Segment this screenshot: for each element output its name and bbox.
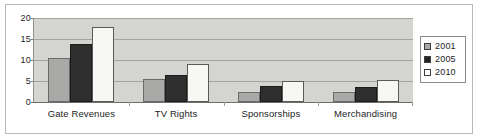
- legend-swatch-icon: [424, 69, 431, 76]
- x-axis-tick-mark: [224, 102, 225, 106]
- bar-group: [224, 18, 319, 102]
- y-axis: 05101520: [6, 18, 31, 102]
- bar-group: [318, 18, 413, 102]
- x-axis-category-label: Sponsorships: [224, 108, 319, 119]
- legend-item[interactable]: 2010: [424, 66, 462, 79]
- bar: [282, 81, 304, 102]
- legend-item[interactable]: 2001: [424, 40, 462, 53]
- chart-legend: 200120052010: [420, 36, 466, 83]
- bar: [70, 44, 92, 102]
- y-axis-tick-label: 20: [9, 14, 31, 23]
- legend-label: 2010: [435, 68, 456, 77]
- chart-figure: 05101520 200120052010 Gate RevenuesTV Ri…: [5, 4, 473, 134]
- y-axis-tick-label: 10: [9, 56, 31, 65]
- bar: [333, 92, 355, 102]
- x-axis-tick-mark: [129, 102, 130, 106]
- bar: [238, 92, 260, 102]
- bar: [377, 80, 399, 102]
- legend-label: 2005: [435, 55, 456, 64]
- bars-layer: [34, 18, 413, 102]
- bar-group: [34, 18, 129, 102]
- x-axis-category-label: Gate Revenues: [34, 108, 129, 119]
- bar-group: [129, 18, 224, 102]
- x-axis-category-label: TV Rights: [129, 108, 224, 119]
- legend-swatch-icon: [424, 43, 431, 50]
- legend-label: 2001: [435, 42, 456, 51]
- bar: [355, 87, 377, 102]
- x-axis-tick-mark: [318, 102, 319, 106]
- bar: [165, 75, 187, 102]
- legend-swatch-icon: [424, 56, 431, 63]
- bar: [143, 79, 165, 102]
- y-axis-tick-label: 5: [9, 77, 31, 86]
- bar: [48, 58, 70, 102]
- y-axis-tick-label: 0: [9, 98, 31, 107]
- bar: [92, 27, 114, 102]
- legend-item[interactable]: 2005: [424, 53, 462, 66]
- x-axis-category-label: Merchandising: [318, 108, 413, 119]
- y-axis-tick-label: 15: [9, 35, 31, 44]
- bar-chart: 05101520 200120052010 Gate RevenuesTV Ri…: [6, 5, 472, 133]
- bar: [260, 86, 282, 102]
- bar: [187, 64, 209, 102]
- x-axis-tick-mark: [412, 102, 413, 106]
